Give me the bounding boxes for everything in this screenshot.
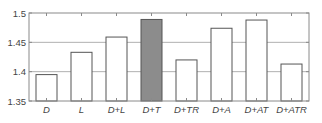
bar-d-plus-t [141, 19, 162, 101]
x-tick-label: D+AT [245, 104, 270, 115]
bar-d-plus-tr [176, 60, 197, 101]
x-tick-label: D+TR [174, 104, 199, 115]
bar-d-plus-l [106, 37, 127, 101]
bar-d-plus-at [246, 20, 267, 101]
x-tick-label: L [79, 104, 84, 115]
bar-chart: 1.351.41.451.5 DLD+LD+TD+TRD+AD+ATD+ATR [0, 0, 322, 123]
bar-d-plus-atr [281, 64, 302, 101]
x-tick-label: D+A [212, 104, 231, 115]
y-tick-label: 1.45 [8, 37, 27, 48]
y-tick-label: 1.5 [13, 8, 26, 19]
x-tick-label: D+L [108, 104, 126, 115]
bar-d-plus-a [211, 28, 232, 101]
x-tick-label: D+ATR [276, 104, 307, 115]
bars [36, 19, 302, 101]
x-tick-label: D+T [142, 104, 161, 115]
y-tick-label: 1.35 [8, 96, 27, 107]
x-tick-label: D [43, 104, 50, 115]
bar-l [71, 52, 92, 101]
y-tick-label: 1.4 [13, 66, 26, 77]
bar-d [36, 75, 57, 101]
